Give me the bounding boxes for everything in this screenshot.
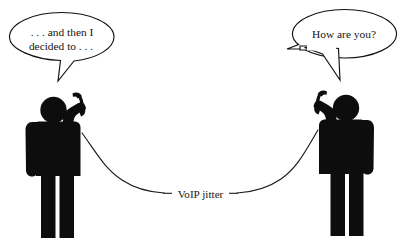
caller-right-bubble-seam [307,44,336,51]
caller-left-leg-2 [60,176,75,238]
connection-label: VoIP jitter [178,188,224,200]
caller-left-bubble-line2: decided to . . . [29,40,93,52]
caller-left-head [40,97,66,123]
caller-right-hanging-arm [362,120,375,175]
caller-left-bubble-line1: . . . and then I [31,26,94,38]
illustration-canvas: VoIP jitter [0,0,405,243]
caller-right-leg-1 [331,174,346,236]
caller-right-bubble-line1: How are you? [312,28,376,40]
voip-jitter-illustration: VoIP jitter [0,0,405,243]
caller-left-leg-1 [41,176,56,238]
caller-left-hanging-arm [26,122,39,177]
caller-right-head [333,95,359,121]
caller-right-leg-2 [349,174,364,236]
